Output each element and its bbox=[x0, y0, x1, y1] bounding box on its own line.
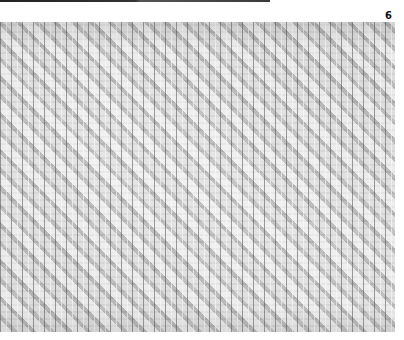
page-number: 6 bbox=[385, 11, 392, 21]
top-rule bbox=[0, 0, 270, 2]
textile-photograph: woven textile close-up, twill / diagonal… bbox=[0, 22, 395, 332]
